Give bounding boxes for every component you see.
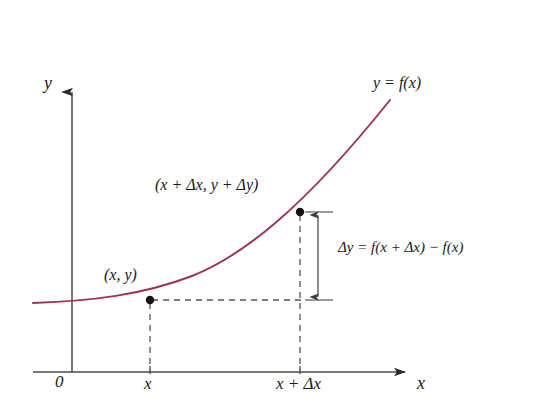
x-tick-label-x-plus-dx: x + Δx <box>276 375 321 392</box>
curve-equation-label: y = f(x) <box>373 75 421 91</box>
function-increment-figure: y x 0 y = f(x) (x, y) (x + Δx, y + Δy) Δ… <box>0 0 539 416</box>
x-axis-label: x <box>417 374 425 392</box>
x-tick-label-x: x <box>144 375 152 392</box>
lower-point-label: (x, y) <box>104 267 137 283</box>
figure-canvas <box>0 0 539 416</box>
upper-point-marker <box>296 208 304 216</box>
origin-label: 0 <box>55 373 64 390</box>
lower-point-marker <box>146 296 154 304</box>
delta-y-expression-label: Δy = f(x + Δx) − f(x) <box>338 240 463 255</box>
function-curve <box>33 100 390 303</box>
upper-point-label: (x + Δx, y + Δy) <box>155 177 258 193</box>
y-axis-label: y <box>44 74 52 92</box>
